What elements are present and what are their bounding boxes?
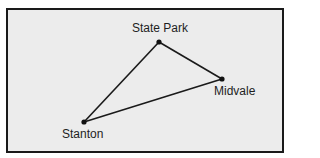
- town-label-stanton: Stanton: [62, 127, 103, 141]
- town-dot-stanton: [81, 119, 86, 124]
- road-state-park-midvale: [159, 42, 222, 79]
- town-dot-midvale: [219, 76, 224, 81]
- town-label-state-park: State Park: [132, 21, 188, 35]
- town-label-midvale: Midvale: [214, 84, 255, 98]
- town-dot-state-park: [156, 39, 161, 44]
